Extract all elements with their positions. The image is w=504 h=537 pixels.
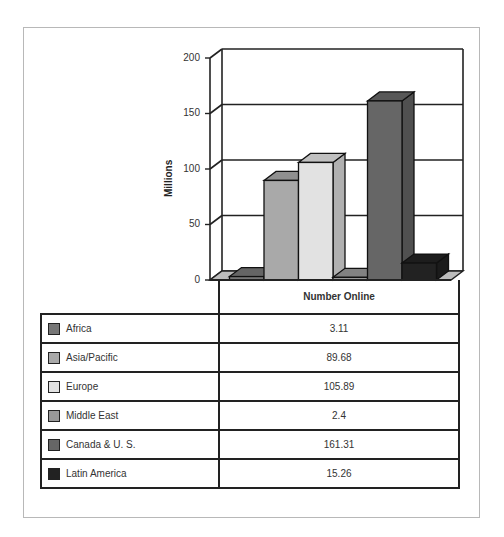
legend-swatch-middle-east	[48, 410, 60, 422]
legend-label-cell: Canada & U. S.	[41, 430, 219, 459]
table-row: Asia/Pacific 89.68	[41, 343, 459, 372]
table-header-blank	[41, 280, 219, 314]
legend-swatch-asia-pacific	[48, 352, 60, 364]
legend-swatch-europe	[48, 381, 60, 393]
y-tick-200: 200	[170, 52, 200, 63]
row-value: 15.26	[219, 459, 459, 488]
legend-swatch-latin-america	[48, 468, 60, 480]
table-row: Africa 3.11	[41, 314, 459, 343]
row-value: 3.11	[219, 314, 459, 343]
data-table: Number Online Africa 3.11 Asia/Pacific 8…	[40, 280, 460, 489]
table-row: Latin America 15.26	[41, 459, 459, 488]
y-tick-150: 150	[170, 107, 200, 118]
legend-label-cell: Asia/Pacific	[41, 343, 219, 372]
row-label: Africa	[66, 323, 92, 334]
row-label: Middle East	[66, 410, 118, 421]
table-header-row: Number Online	[41, 280, 459, 314]
y-tick-100: 100	[170, 163, 200, 174]
row-label: Asia/Pacific	[66, 352, 118, 363]
legend-swatch-canada-us	[48, 439, 60, 451]
row-value: 89.68	[219, 343, 459, 372]
row-label: Canada & U. S.	[66, 439, 135, 450]
row-value: 105.89	[219, 372, 459, 401]
y-axis-label: Millions	[163, 160, 174, 197]
legend-label-cell: Middle East	[41, 401, 219, 430]
row-value: 2.4	[219, 401, 459, 430]
legend-label-cell: Latin America	[41, 459, 219, 488]
legend-label-cell: Africa	[41, 314, 219, 343]
legend-label-cell: Europe	[41, 372, 219, 401]
table-row: Europe 105.89	[41, 372, 459, 401]
table-row: Canada & U. S. 161.31	[41, 430, 459, 459]
row-label: Europe	[66, 381, 98, 392]
row-label: Latin America	[66, 468, 127, 479]
table-header-number-online: Number Online	[219, 280, 459, 314]
table-row: Middle East 2.4	[41, 401, 459, 430]
legend-swatch-africa	[48, 323, 60, 335]
y-tick-50: 50	[170, 218, 200, 229]
row-value: 161.31	[219, 430, 459, 459]
